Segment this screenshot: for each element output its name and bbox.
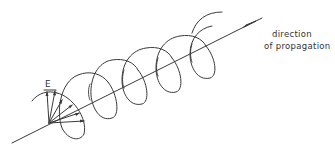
helix-loop-1 (57, 73, 108, 139)
helix-loop-4 (156, 35, 206, 92)
diagram-canvas (0, 0, 335, 151)
axis-arrow-icon (244, 21, 256, 27)
field-vector-label: E (45, 79, 51, 89)
field-vectors (47, 91, 84, 123)
helix-leading-arc (192, 12, 222, 33)
direction-label-line1: direction (272, 29, 312, 39)
helix-loop-2 (89, 59, 139, 118)
direction-label-line2: of propagation (264, 41, 331, 51)
